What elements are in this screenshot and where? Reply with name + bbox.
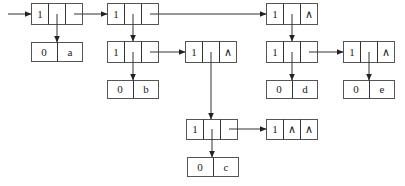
tag-label: 0 (197, 161, 203, 173)
null-pointer-icon: ∧ (305, 123, 313, 135)
atom-node-b: 0 b (108, 81, 159, 99)
atom-value: a (68, 46, 73, 58)
tag-label: 0 (276, 83, 282, 95)
atom-value: e (380, 83, 385, 95)
tag-label: 1 (37, 8, 43, 20)
tag-label: 1 (113, 8, 119, 20)
generalized-list-diagram: 1 1 1 1 ∧ 1 ∧ 1 1 ∧ (0, 0, 405, 186)
atom-value: c (224, 161, 229, 173)
atom-node-e: 0 e (344, 81, 395, 99)
null-pointer-icon: ∧ (224, 46, 232, 58)
tag-label: 1 (272, 8, 278, 20)
null-pointer-icon: ∧ (382, 46, 390, 58)
atom-value: b (143, 83, 149, 95)
tag-label: 1 (113, 46, 119, 58)
tag-label: 0 (353, 83, 359, 95)
tag-label: 1 (191, 46, 197, 58)
tag-label: 1 (349, 46, 355, 58)
tag-label: 0 (41, 46, 47, 58)
null-pointer-icon: ∧ (305, 8, 313, 20)
tag-label: 1 (272, 46, 278, 58)
tag-label: 0 (117, 83, 123, 95)
tag-label: 1 (192, 123, 198, 135)
atom-node-c: 0 c (188, 158, 239, 177)
list-node-9: 1 ∧ ∧ (267, 120, 318, 140)
tag-label: 1 (272, 123, 278, 135)
atom-node-a: 0 a (32, 43, 83, 62)
null-pointer-icon: ∧ (288, 123, 296, 135)
atom-node-d: 0 d (267, 81, 318, 99)
atom-value: d (302, 83, 308, 95)
